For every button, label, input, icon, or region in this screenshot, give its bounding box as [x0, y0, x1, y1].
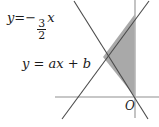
equation-slope-label: y=−32x: [7, 11, 54, 41]
fraction-denominator: 2: [37, 29, 46, 41]
fraction-numerator: 3: [37, 18, 46, 29]
equation-slope-minus: −: [25, 10, 36, 25]
fraction-three-halves: 32: [37, 18, 46, 41]
equation-general-label: y = ax + b: [22, 57, 91, 70]
equation-slope-equals: =: [14, 10, 25, 25]
origin-label: O: [125, 100, 135, 112]
equation-slope-variable: x: [47, 10, 54, 25]
